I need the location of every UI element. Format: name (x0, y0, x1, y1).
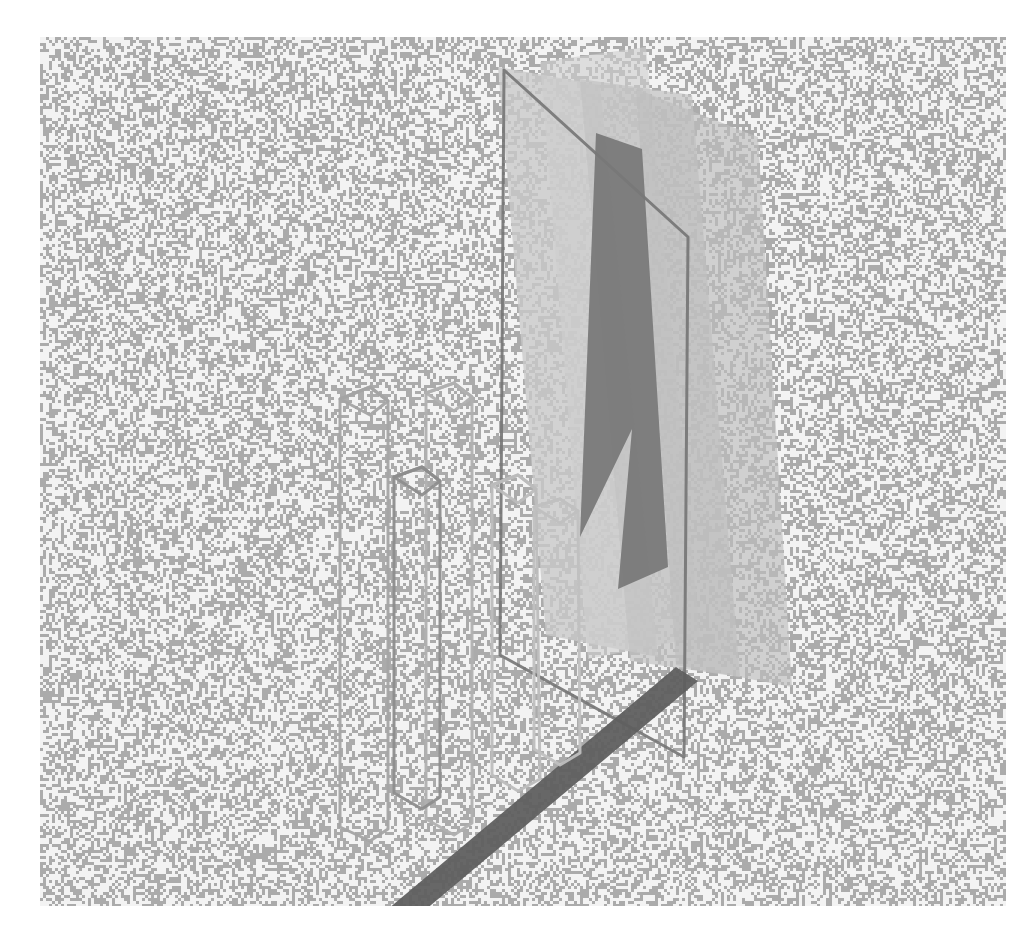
screenshot-root (0, 0, 1029, 933)
dithered-noise-background (40, 37, 1006, 906)
artboard (40, 37, 1006, 906)
